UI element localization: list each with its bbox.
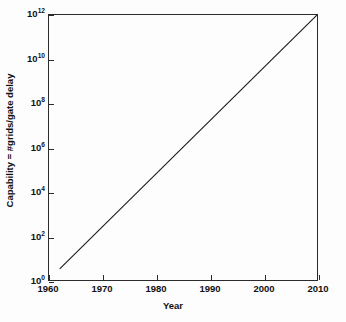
x-axis-tick-label: 1990: [190, 284, 230, 294]
y-axis-title-container: Capability = #grids/gate delay: [0, 0, 20, 281]
y-axis-title: Capability = #grids/gate delay: [5, 74, 16, 208]
y-axis-tick-label: 1012: [27, 9, 45, 19]
y-axis-tick-label: 104: [31, 187, 45, 197]
y-axis-tick-label: 102: [31, 232, 45, 242]
x-axis-tick-label: 2010: [298, 284, 338, 294]
x-axis-title: Year: [0, 300, 346, 311]
chart-figure: Capability = #grids/gate delay 100102104…: [0, 0, 346, 322]
x-axis-tick-label: 1970: [82, 284, 122, 294]
y-axis-tick-label: 106: [31, 143, 45, 153]
x-axis-tick-label: 1980: [136, 284, 176, 294]
data-line-svg: [49, 15, 317, 280]
y-axis-tick-label: 108: [31, 98, 45, 108]
plot-area: [48, 14, 318, 281]
x-axis-tick: [319, 275, 320, 280]
capability-line: [60, 15, 317, 269]
x-axis-tick-label: 2000: [244, 284, 284, 294]
y-axis-tick-label: 1010: [27, 54, 45, 64]
y-axis-tick: [49, 282, 54, 283]
x-axis-tick-label: 1960: [28, 284, 68, 294]
